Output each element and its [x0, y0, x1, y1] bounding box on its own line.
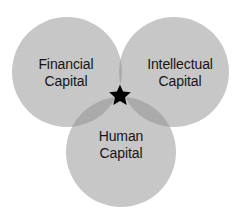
venn-diagram: Financial Capital Intellectual Capital H… — [0, 0, 243, 219]
venn-canvas — [0, 0, 243, 219]
